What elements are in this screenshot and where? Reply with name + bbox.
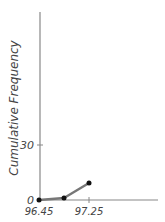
ogive-chart: 30 0 96.45 97.25 Cumulative Frequency [0, 0, 165, 222]
data-point-3 [87, 181, 92, 186]
data-point-2 [62, 196, 67, 201]
y-tick-label-30: 30 [20, 139, 34, 152]
data-point-1 [37, 198, 42, 203]
x-tick-label-96-45: 96.45 [25, 206, 54, 217]
x-tick-label-97-25: 97.25 [75, 206, 104, 217]
y-axis-label: Cumulative Frequency [7, 39, 21, 175]
